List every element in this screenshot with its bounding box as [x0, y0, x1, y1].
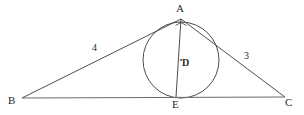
- geometry-canvas: [0, 0, 304, 115]
- circle-center-label-d: D: [182, 58, 189, 68]
- side-length-label-ab: 4: [92, 43, 97, 53]
- segment-bc: [22, 97, 285, 98]
- geometry-figure: A B C D E 4 3: [0, 0, 304, 115]
- segment-ab: [22, 19, 181, 98]
- segment-ae: [176, 19, 181, 97]
- side-length-label-ac: 3: [244, 51, 249, 61]
- tangent-point-label-e: E: [172, 99, 179, 110]
- segment-ac: [181, 19, 285, 97]
- vertex-label-c: C: [285, 97, 292, 108]
- vertex-label-a: A: [176, 3, 184, 14]
- vertex-label-b: B: [8, 95, 15, 106]
